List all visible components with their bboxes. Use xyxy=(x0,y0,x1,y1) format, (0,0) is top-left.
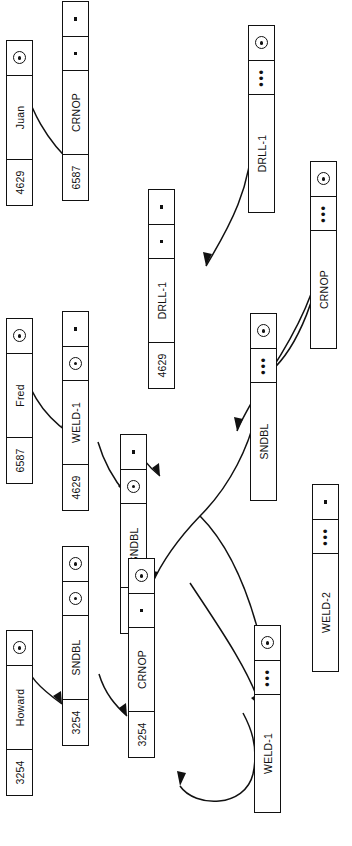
cell-key: 3254 xyxy=(7,749,32,795)
cell-key: 4629 xyxy=(149,342,174,388)
link-crnop3254-to-sndbl3254 xyxy=(180,713,255,801)
cell-key: 4629 xyxy=(63,464,88,510)
node-employee-fred[interactable]: 6587 Fred xyxy=(6,318,33,484)
node-skill-crnop-6587[interactable]: 6587 CRNOP xyxy=(62,1,89,201)
node-skill-crnop-3254[interactable]: 3254 CRNOP xyxy=(128,558,155,758)
cell-key: 4629 xyxy=(7,159,32,205)
link-type-weld1 xyxy=(190,583,260,706)
pointer-dot-icon xyxy=(13,330,26,343)
arrowhead xyxy=(203,252,212,266)
cell-pointer[interactable] xyxy=(7,41,32,75)
pointer-dot-icon xyxy=(69,592,82,605)
cell-pointer-2[interactable] xyxy=(63,2,88,36)
pointer-dot-icon xyxy=(261,637,274,650)
cell-pointer-2[interactable] xyxy=(63,312,88,346)
node-employee-juan[interactable]: 4629 Juan xyxy=(6,40,33,206)
arrowhead xyxy=(234,417,243,431)
cell-ellipsis: ••• xyxy=(249,60,274,94)
cell-name: WELD-1 xyxy=(255,694,280,812)
cell-name: CRNOP xyxy=(311,230,336,348)
cell-name: SNDBL xyxy=(251,382,276,500)
link-sndbl3254-to-crnop3254 xyxy=(99,674,127,716)
node-skill-sndbl-3254[interactable]: 3254 SNDBL xyxy=(62,546,89,746)
link-type-drll1 xyxy=(206,134,252,266)
cell-key: 6587 xyxy=(7,437,32,483)
node-skill-drll1-4629[interactable]: 4629 DRLL-1 xyxy=(148,189,175,389)
cell-key: 6587 xyxy=(63,154,88,200)
cell-pointer[interactable] xyxy=(121,469,146,503)
diagram-canvas: 4629 Juan 6587 Fred 3254 Howard 6587 CRN… xyxy=(0,0,352,846)
cell-name: Juan xyxy=(7,75,32,159)
node-type-weld1[interactable]: WELD-1 ••• xyxy=(254,625,281,813)
cell-name: WELD-2 xyxy=(313,553,338,671)
node-type-weld2[interactable]: WELD-2 ••• xyxy=(312,484,339,672)
pointer-dot-icon xyxy=(317,173,330,186)
cell-ellipsis: ••• xyxy=(313,519,338,553)
pointer-dot-icon xyxy=(255,37,268,50)
cell-pointer[interactable] xyxy=(63,581,88,615)
cell-pointer[interactable] xyxy=(311,162,336,196)
cell-name: DRLL-1 xyxy=(149,258,174,342)
arrowhead xyxy=(53,691,62,704)
cell-pointer[interactable] xyxy=(7,319,32,353)
arrowhead xyxy=(119,703,127,716)
dot-icon xyxy=(74,52,77,55)
dot-icon xyxy=(74,327,77,330)
cell-ellipsis: ••• xyxy=(255,660,280,694)
arrowhead xyxy=(177,771,186,786)
dot-icon xyxy=(160,205,163,208)
pointer-dot-icon xyxy=(127,480,140,493)
pointer-dot-icon xyxy=(13,52,26,65)
cell-pointer-2[interactable] xyxy=(121,435,146,469)
cell-pointer[interactable] xyxy=(7,631,32,665)
node-employee-howard[interactable]: 3254 Howard xyxy=(6,630,33,796)
cell-key: 3254 xyxy=(129,711,154,757)
pointer-arrows-layer xyxy=(0,0,352,846)
dot-icon xyxy=(140,609,143,612)
cell-pointer[interactable] xyxy=(63,36,88,70)
cell-name: Howard xyxy=(7,665,32,749)
cell-ellipsis: ••• xyxy=(251,348,276,382)
cell-pointer-2[interactable] xyxy=(63,547,88,581)
arrowhead xyxy=(152,463,160,476)
dot-icon xyxy=(160,240,163,243)
cell-name: SNDBL xyxy=(63,615,88,699)
link-type-sndbl xyxy=(152,406,258,584)
ellipsis-icon: ••• xyxy=(318,527,331,545)
node-type-sndbl[interactable]: SNDBL ••• xyxy=(250,313,277,501)
cell-pointer[interactable] xyxy=(129,593,154,627)
cell-pointer[interactable] xyxy=(313,485,338,519)
cell-pointer-2[interactable] xyxy=(149,190,174,224)
cell-key: 3254 xyxy=(63,699,88,745)
cell-name: DRLL-1 xyxy=(249,94,274,212)
cell-name: CRNOP xyxy=(63,70,88,154)
pointer-dot-icon xyxy=(13,642,26,655)
cell-pointer[interactable] xyxy=(249,26,274,60)
link-cross-a xyxy=(200,516,262,646)
pointer-dot-icon xyxy=(69,558,82,571)
cell-name: Fred xyxy=(7,353,32,437)
pointer-dot-icon xyxy=(69,357,82,370)
cell-name: WELD-1 xyxy=(63,380,88,464)
ellipsis-icon: ••• xyxy=(316,204,329,222)
cell-pointer[interactable] xyxy=(255,626,280,660)
ellipsis-icon: ••• xyxy=(256,356,269,374)
pointer-dot-icon xyxy=(257,325,270,338)
node-type-drll1[interactable]: DRLL-1 ••• xyxy=(248,25,275,213)
cell-pointer[interactable] xyxy=(251,314,276,348)
pointer-dot-icon xyxy=(135,570,148,583)
cell-name: CRNOP xyxy=(129,627,154,711)
diagram-rotation-wrapper: 4629 Juan 6587 Fred 3254 Howard 6587 CRN… xyxy=(0,0,352,846)
cell-ellipsis: ••• xyxy=(311,196,336,230)
cell-pointer-2[interactable] xyxy=(129,559,154,593)
dot-icon xyxy=(132,450,135,453)
dot-icon xyxy=(74,17,77,20)
cell-pointer[interactable] xyxy=(149,224,174,258)
cell-pointer[interactable] xyxy=(63,346,88,380)
dot-icon xyxy=(324,500,327,503)
node-type-crnop[interactable]: CRNOP ••• xyxy=(310,161,337,349)
node-skill-weld1-4629[interactable]: 4629 WELD-1 xyxy=(62,311,89,511)
ellipsis-icon: ••• xyxy=(260,668,273,686)
ellipsis-icon: ••• xyxy=(254,68,267,86)
